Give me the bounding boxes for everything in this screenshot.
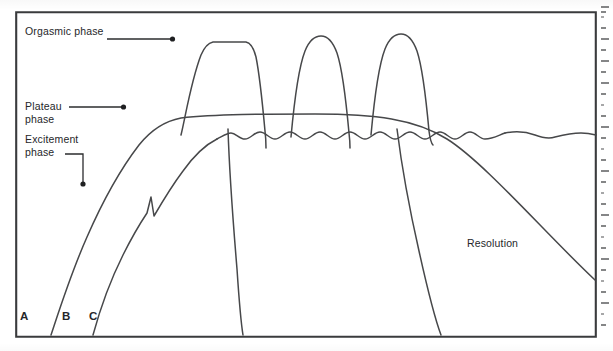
orgasmic-peak-2 — [291, 36, 350, 148]
chart-border — [16, 12, 596, 337]
label-plateau-phase-line1: Plateau — [25, 100, 62, 113]
label-excitement-phase-line1: Excitement — [25, 133, 78, 146]
label-marker-a: A — [20, 310, 29, 323]
excitement-phase-leader — [65, 154, 86, 187]
label-excitement-phase-line2: phase — [25, 146, 54, 159]
curve-b-plateau-no-orgasm — [51, 114, 595, 335]
figure-frame: Orgasmic phase Plateau phase Excitement … — [15, 11, 597, 338]
curve-a-resolution-descent — [228, 129, 243, 335]
figure-page: Orgasmic phase Plateau phase Excitement … — [0, 0, 613, 351]
label-plateau-phase-line2: phase — [25, 113, 54, 126]
label-resolution: Resolution — [467, 237, 518, 250]
cropped-margin-text-column — [601, 0, 613, 351]
plateau-phase-leader — [69, 104, 126, 109]
curve-c-resolution-descent — [397, 129, 441, 335]
curve-c-multiple-orgasms — [93, 132, 596, 335]
orgasmic-phase-leader — [107, 36, 175, 41]
response-cycle-chart — [15, 11, 597, 338]
label-marker-c: C — [89, 310, 98, 323]
label-marker-b: B — [62, 310, 71, 323]
label-orgasmic-phase: Orgasmic phase — [25, 25, 104, 38]
orgasmic-peak-1 — [181, 42, 266, 148]
